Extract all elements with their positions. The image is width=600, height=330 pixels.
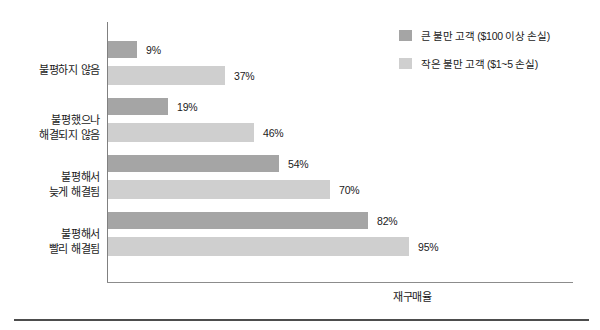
category-axis-labels: 불평하지 않음불평했으나해결되지 않음불평해서늦게 해결됨불평해서빨리 해결됨 — [0, 22, 100, 283]
legend-item[interactable]: 큰 불만 고객 ($100 이상 손실) — [399, 28, 550, 43]
bar — [108, 98, 168, 115]
x-axis-title: 재구매율 — [393, 288, 432, 304]
bar-row: 54% — [108, 155, 577, 172]
bar — [108, 41, 137, 58]
category-label-line: 빨리 해결됨 — [4, 242, 100, 257]
bar — [108, 212, 368, 229]
category-label-line: 불평해서 — [4, 227, 100, 242]
bar-value-label: 70% — [339, 184, 359, 196]
legend-label: 큰 불만 고객 ($100 이상 손실) — [421, 28, 550, 43]
legend-swatch — [399, 30, 412, 41]
bar-value-label: 19% — [177, 101, 197, 113]
category-label-line: 불평해서 — [4, 170, 100, 185]
bar — [108, 66, 225, 85]
category-label-line: 늦게 해결됨 — [4, 185, 100, 200]
bar-row: 82% — [108, 212, 577, 229]
bar-value-label: 37% — [234, 70, 254, 82]
chart-legend: 큰 불만 고객 ($100 이상 손실)작은 불만 고객 ($1~5 손실) — [399, 28, 550, 84]
bar — [108, 155, 279, 172]
category-label: 불평하지 않음 — [4, 63, 100, 78]
category-label-line: 불평했으나 — [4, 113, 100, 128]
bar-row: 95% — [108, 237, 577, 256]
bar-value-label: 46% — [263, 127, 283, 139]
bar — [108, 123, 254, 142]
x-axis-line — [107, 282, 573, 283]
chart-container: 불평하지 않음불평했으나해결되지 않음불평해서늦게 해결됨불평해서빨리 해결됨 … — [0, 0, 600, 330]
category-label: 불평해서늦게 해결됨 — [4, 170, 100, 200]
bar — [108, 237, 409, 256]
category-label-line: 해결되지 않음 — [4, 128, 100, 143]
bar — [108, 180, 330, 199]
bar-value-label: 95% — [418, 241, 438, 253]
bar-row: 19% — [108, 98, 577, 115]
bar-value-label: 9% — [146, 44, 161, 56]
legend-label: 작은 불만 고객 ($1~5 손실) — [421, 56, 538, 71]
bar-row: 46% — [108, 123, 577, 142]
category-label: 불평해서빨리 해결됨 — [4, 227, 100, 257]
legend-swatch — [399, 58, 412, 69]
bar-value-label: 82% — [377, 215, 397, 227]
bar-row: 70% — [108, 180, 577, 199]
legend-item[interactable]: 작은 불만 고객 ($1~5 손실) — [399, 56, 550, 71]
bottom-divider — [14, 319, 589, 321]
category-label: 불평했으나해결되지 않음 — [4, 113, 100, 143]
bar-value-label: 54% — [288, 158, 308, 170]
category-label-line: 불평하지 않음 — [4, 63, 100, 78]
